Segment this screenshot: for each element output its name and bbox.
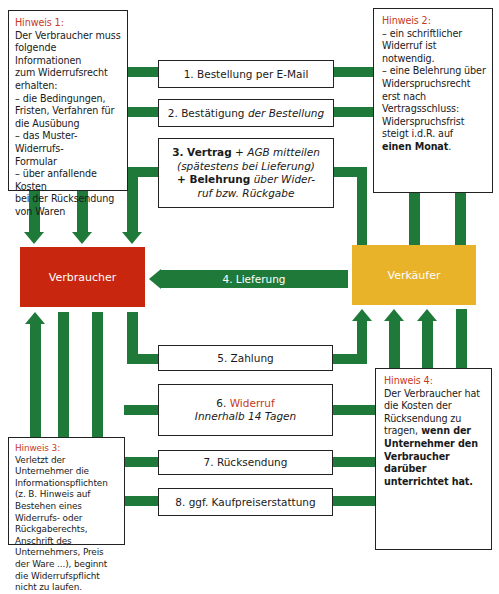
connector-step8-left	[124, 496, 158, 506]
step-5-payment: 5. Zahlung	[158, 345, 333, 371]
note-2-title: Hinweis 2:	[382, 15, 486, 28]
note-2-line: – ein schriftlicher	[382, 28, 486, 41]
note-3-line: Widerrufs- oder	[15, 513, 118, 525]
step-3-line-2: (spätestens bei Lieferung)	[177, 160, 315, 174]
connector-n2-down-2	[455, 192, 466, 245]
note-1-line: – über anfallende Kosten	[15, 168, 121, 193]
note-2-suffix: .	[448, 141, 451, 152]
connector-step1-left	[127, 67, 158, 77]
step-1-label: 1. Bestellung per E-Mail	[184, 68, 309, 81]
note-3-line: Verletzt der	[15, 455, 118, 467]
connector-n3-up-3	[92, 312, 103, 437]
note-1-line: zum Widerrufsrecht	[15, 67, 121, 80]
note-4-mixed-line: tragen, wenn der	[384, 425, 485, 438]
connector-step2-left	[127, 107, 158, 117]
note-1-line: bei der Rücksendung	[15, 193, 121, 206]
note-4: Hinweis 4: Der Verbraucher hat die Koste…	[375, 368, 492, 550]
step-2-confirmation: 2. Bestätigung der Bestellung	[158, 99, 334, 127]
arrow-down-icon	[24, 232, 44, 244]
step-8-refund: 8. ggf. Kaufpreiserstattung	[158, 488, 333, 516]
step-6-title: 6. Widerruf	[216, 397, 274, 410]
note-4-line: die Kosten der	[384, 400, 485, 413]
step-6-withdrawal: 6. Widerruf Innerhalb 14 Tagen	[158, 384, 333, 436]
note-3: Hinweis 3: Verletzt der Unternehmer die …	[8, 437, 125, 545]
consumer-label: Verbraucher	[49, 271, 117, 284]
note-2-line: – eine Belehrung über	[382, 65, 486, 78]
note-3-line: Rückgaberechts,	[15, 524, 118, 536]
seller-label: Verkäufer	[387, 269, 440, 282]
note-1-line: von Waren	[15, 206, 121, 219]
arrow-up-icon	[352, 309, 372, 321]
step-7-return: 7. Rücksendung	[158, 450, 333, 475]
note-2-line: Widerspruchsfrist	[382, 116, 486, 129]
step-3-contract: 3. Vertrag + AGB mitteilen (spätestens b…	[158, 138, 334, 208]
arrow-down-icon	[122, 232, 142, 244]
note-4-title: Hinweis 4:	[384, 375, 485, 388]
connector-step1-right	[334, 67, 373, 77]
step-1-order: 1. Bestellung per E-Mail	[158, 60, 334, 88]
connector-step2-right	[334, 107, 373, 117]
note-2-bold-text: einen Monat	[382, 141, 448, 152]
note-1-line: erhalten:	[15, 80, 121, 93]
note-4-line: Der Verbraucher hat	[384, 388, 485, 401]
connector-step6-right	[333, 405, 375, 415]
note-3-line: Unternehmer die	[15, 466, 118, 478]
note-1: Hinweis 1: Der Verbraucher muss folgende…	[8, 10, 128, 191]
connector-payment-up	[357, 320, 367, 364]
note-4-text: tragen,	[384, 425, 418, 436]
connector-n2-down-1	[409, 192, 420, 245]
note-1-line: – das Muster-Widerrufs-	[15, 130, 121, 155]
step-2-label-main: 2. Bestätigung	[168, 107, 245, 119]
note-2-line: erst nach	[382, 91, 486, 104]
delivery-label: 4. Lieferung	[160, 272, 348, 286]
note-1-line: Der Verbraucher muss	[15, 30, 121, 43]
connector-step8-right	[333, 496, 375, 506]
connector-n3-up-1	[30, 323, 41, 437]
connector-n4-up-3	[456, 309, 467, 368]
connector-payment-left	[127, 354, 158, 364]
note-3-line: Informationspflichten	[15, 478, 118, 490]
note-3-line: Unternehmers, Preis	[15, 547, 118, 559]
note-1-line: – die Bedingungen,	[15, 93, 121, 106]
note-2-line: Widerspruchsrecht	[382, 78, 486, 91]
consumer-box: Verbraucher	[20, 247, 145, 307]
step-7-label: 7. Rücksendung	[204, 456, 288, 469]
step-3-line-1: 3. Vertrag + AGB mitteilen	[172, 146, 320, 160]
step-3-line-3: + Belehrung über Wider-	[177, 173, 315, 187]
step-8-label: 8. ggf. Kaufpreiserstattung	[175, 496, 315, 509]
note-4-bold-line: unterrichtet hat.	[384, 476, 485, 489]
note-3-line: nicht zu laufen.	[15, 582, 118, 594]
note-3-line: (z. B. Hinweis auf	[15, 489, 118, 501]
connector-step7-left	[124, 457, 158, 467]
note-1-line: Fristen, Verfahren für	[15, 105, 121, 118]
note-1-line: die Ausübung	[15, 118, 121, 131]
note-4-bold-line: Verbraucher darüber	[384, 451, 485, 476]
note-3-line: Bestehen eines	[15, 501, 118, 513]
connector-n4-up-1	[389, 320, 400, 368]
note-1-line: Formular	[15, 156, 121, 169]
step-6-subtitle: Innerhalb 14 Tagen	[195, 410, 296, 423]
note-3-line: Anschrift des	[15, 536, 118, 548]
note-4-line: Rücksendung zu	[384, 413, 485, 426]
note-1-line: folgende Informationen	[15, 42, 121, 67]
step-3-bold: 3. Vertrag	[172, 146, 232, 158]
arrow-down-icon	[72, 232, 92, 244]
note-3-title: Hinweis 3:	[15, 443, 118, 455]
note-2-line: Widerruf ist notwendig.	[382, 40, 486, 65]
step-6-number: 6.	[216, 397, 226, 409]
step-5-label: 5. Zahlung	[217, 352, 274, 365]
note-1-title: Hinweis 1:	[15, 17, 121, 30]
connector-n4-up-2	[422, 320, 433, 368]
step-3-line-4: ruf bzw. Rückgabe	[198, 187, 295, 201]
note-3-line: der Ware ...), beginnt	[15, 559, 118, 571]
connector-step3-down	[127, 167, 138, 233]
note-2-bold-line: einen Monat.	[382, 141, 486, 154]
seller-box: Verkäufer	[352, 245, 476, 305]
connector-step6-left	[124, 405, 158, 415]
note-2: Hinweis 2: – ein schriftlicher Widerruf …	[373, 8, 493, 193]
connector-n3-up-2	[58, 312, 69, 437]
step-3-italic: + AGB mitteilen	[235, 146, 320, 158]
note-4-bold-text: wenn der	[418, 425, 471, 436]
note-4-bold-line: Unternehmer den	[384, 438, 485, 451]
step-3-bold: + Belehrung	[177, 173, 250, 185]
